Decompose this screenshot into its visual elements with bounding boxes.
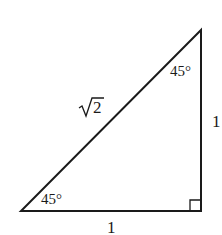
vertical-side-label: 1: [212, 113, 221, 130]
triangle: [21, 30, 201, 211]
triangle-diagram: [0, 0, 222, 235]
horizontal-side-label: 1: [107, 219, 116, 235]
hypotenuse-label: 2: [93, 99, 102, 116]
right-angle-marker: [190, 200, 201, 211]
bottom-left-angle-label: 45°: [41, 192, 62, 207]
top-angle-label: 45°: [170, 64, 191, 79]
